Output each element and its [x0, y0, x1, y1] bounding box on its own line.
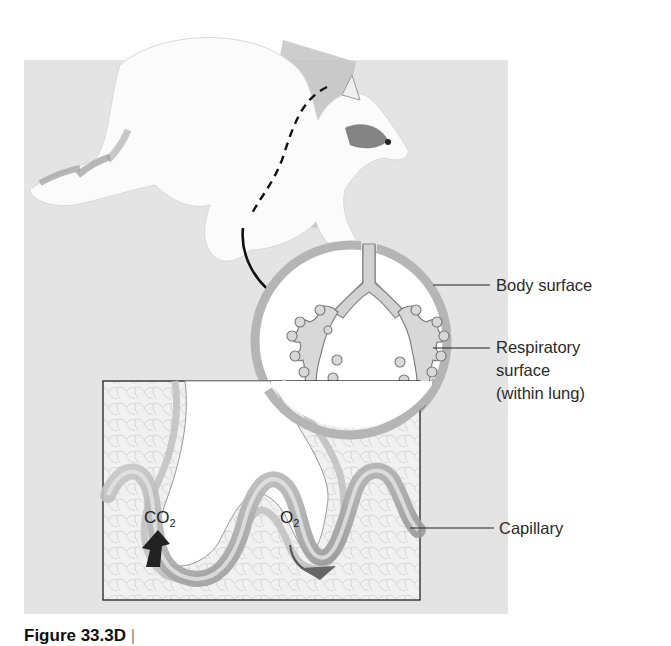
co2-label: CO2: [144, 508, 176, 529]
respiratory-surface-label-line1: Respiratory: [496, 337, 580, 358]
body-surface-label: Body surface: [496, 275, 592, 296]
respiratory-surface-label-line3: (within lung): [496, 383, 585, 404]
capillary-label: Capillary: [499, 518, 563, 539]
figure-caption: Figure 33.3D |: [24, 626, 135, 646]
o2-label: O2: [280, 508, 299, 529]
respiratory-surface-label-line2: surface: [496, 360, 550, 381]
